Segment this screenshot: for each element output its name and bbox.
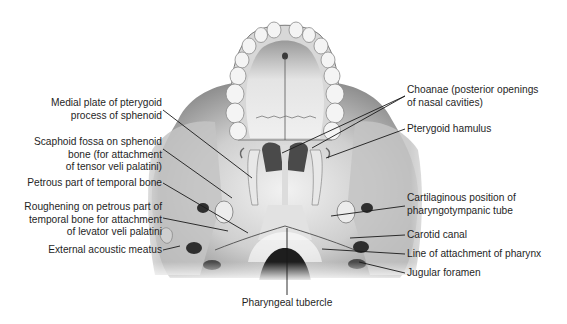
label-scaphoid-fossa: Scaphoid fossa on sphenoid bone (for att… [34, 136, 162, 174]
label-petrous-part: Petrous part of temporal bone [27, 177, 162, 190]
label-carotid-canal: Carotid canal [407, 229, 467, 242]
label-line: Scaphoid fossa on sphenoid [34, 136, 162, 149]
label-jugular-foramen: Jugular foramen [407, 267, 481, 280]
label-cartilaginous-tube: Cartilaginous position of pharyngotympan… [407, 192, 516, 217]
label-line: Pharyngeal tubercle [217, 297, 357, 310]
label-line: of levator veli palatini [24, 226, 162, 239]
label-line: of nasal cavities) [407, 97, 538, 110]
label-line: Pterygoid hamulus [407, 123, 491, 136]
label-medial-plate-pterygoid: Medial plate of pterygoid process of sph… [51, 97, 162, 122]
label-pharyngeal-tubercle: Pharyngeal tubercle [217, 297, 357, 310]
label-line-attachment-pharynx: Line of attachment of pharynx [407, 248, 541, 261]
label-line: Jugular foramen [407, 267, 481, 280]
label-roughening-petrous: Roughening on petrous part of temporal b… [24, 201, 162, 239]
dental-arch [226, 22, 344, 140]
label-line: Choanae (posterior openings [407, 84, 538, 97]
label-pterygoid-hamulus: Pterygoid hamulus [407, 123, 491, 136]
label-line: temporal bone for attachment [24, 214, 162, 227]
label-line: Petrous part of temporal bone [27, 177, 162, 190]
label-line: pharyngotympanic tube [407, 205, 516, 218]
label-line: process of sphenoid [51, 110, 162, 123]
label-line: Line of attachment of pharynx [407, 248, 541, 261]
label-choanae: Choanae (posterior openings of nasal cav… [407, 84, 538, 109]
label-line: Carotid canal [407, 229, 467, 242]
label-line: Roughening on petrous part of [24, 201, 162, 214]
label-line: of tensor veli palatini) [34, 161, 162, 174]
anatomy-figure: Medial plate of pterygoid process of sph… [0, 0, 567, 324]
label-line: Medial plate of pterygoid [51, 97, 162, 110]
label-line: bone (for attachment [34, 149, 162, 162]
label-line: Cartilaginous position of [407, 192, 516, 205]
label-external-acoustic-meatus: External acoustic meatus [48, 244, 162, 257]
label-line: External acoustic meatus [48, 244, 162, 257]
